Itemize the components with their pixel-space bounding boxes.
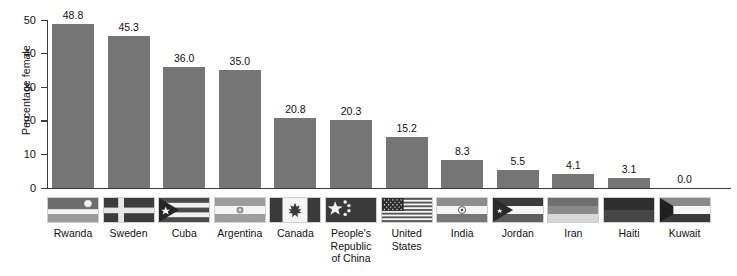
bar (497, 170, 539, 188)
flag-canada-icon (269, 197, 321, 223)
bar-value-label: 5.5 (488, 156, 548, 167)
bar (108, 36, 150, 188)
bar-value-label: 36.0 (154, 53, 214, 64)
bar (330, 120, 372, 188)
category-label-kuwait: Kuwait (647, 227, 723, 240)
flag-kuwait-icon (659, 197, 711, 223)
flag-china-icon (325, 197, 377, 223)
flag-argentina-icon (214, 197, 266, 223)
bar-chart-figure: Percentage female 01020304050 48.845.336… (0, 0, 737, 276)
flag-cuba-icon (158, 197, 210, 223)
bar (441, 160, 483, 188)
bar (552, 174, 594, 188)
flag-haiti-icon (603, 197, 655, 223)
bar (163, 67, 205, 188)
bar (386, 137, 428, 188)
flag-sweden-icon (103, 197, 155, 223)
flag-india-icon (436, 197, 488, 223)
bar-value-label: 3.1 (599, 164, 659, 175)
flag-rwanda-icon (47, 197, 99, 223)
bar-value-label: 20.8 (265, 104, 325, 115)
bar (274, 118, 316, 188)
flag-united-states-icon (381, 197, 433, 223)
bar (608, 178, 650, 188)
bar-value-label: 35.0 (210, 56, 270, 67)
bar-value-label: 4.1 (543, 160, 603, 171)
bar-value-label: 8.3 (432, 146, 492, 157)
bar-value-label: 15.2 (377, 123, 437, 134)
flag-iran-icon (547, 197, 599, 223)
category-label-line: of China (313, 252, 389, 265)
bar (219, 70, 261, 188)
bar-value-label: 20.3 (321, 106, 381, 117)
flag-jordan-icon (492, 197, 544, 223)
bar-value-label: 48.8 (43, 10, 103, 21)
category-label-line: Kuwait (647, 227, 723, 240)
bar (52, 24, 94, 188)
category-label-line: States (369, 240, 445, 253)
bar-value-label: 45.3 (99, 22, 159, 33)
bar-value-label: 0.0 (655, 174, 715, 185)
